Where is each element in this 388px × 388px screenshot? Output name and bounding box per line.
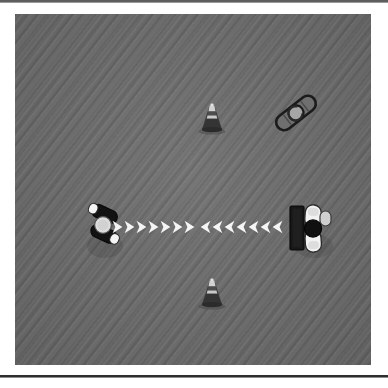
top-rule-shadow (0, 2, 388, 3)
chevron-left-icon (212, 220, 223, 234)
cone-icon (195, 276, 229, 310)
athlete-right[interactable] (278, 194, 346, 266)
arrows-rightward (112, 220, 195, 234)
chevron-left-icon (224, 220, 235, 234)
chevron-right-icon (136, 220, 147, 234)
chevron-left-icon (248, 220, 259, 234)
page-root (0, 0, 388, 388)
traffic-cone-bottom[interactable] (195, 276, 229, 314)
cone-icon (195, 101, 229, 135)
field-vignette (15, 14, 371, 365)
chevron-right-icon (184, 220, 195, 234)
chevron-left-icon (260, 220, 271, 234)
chevron-right-icon (112, 220, 123, 234)
foam-roller[interactable] (267, 84, 325, 146)
chevron-left-icon (272, 220, 283, 234)
foam-roller-icon (267, 84, 325, 142)
chevron-left-icon (200, 220, 211, 234)
chevron-right-icon (172, 220, 183, 234)
arrows-leftward (200, 220, 283, 234)
field-texture-overlay (15, 14, 371, 365)
chevron-right-icon (148, 220, 159, 234)
bottom-rule-shadow (0, 377, 388, 378)
traffic-cone-top[interactable] (195, 101, 229, 139)
training-field (15, 14, 371, 365)
chevron-right-icon (160, 220, 171, 234)
chevron-right-icon (124, 220, 135, 234)
athlete-feet-icon (278, 194, 346, 262)
chevron-left-icon (236, 220, 247, 234)
